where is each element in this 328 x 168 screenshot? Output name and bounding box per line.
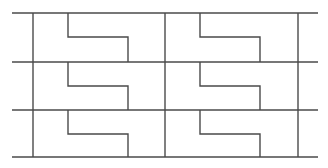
figure-root	[0, 0, 328, 168]
tessellation-diagram	[0, 0, 328, 168]
figure-background	[0, 0, 328, 168]
